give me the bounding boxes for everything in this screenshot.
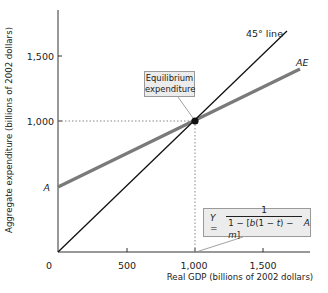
den-part: ) − [280, 218, 293, 228]
x-tick-label-1000: 1,000 [180, 260, 207, 271]
formula-rhs: A [304, 218, 310, 228]
formula-numerator: 1 [226, 205, 302, 217]
den-m: m [228, 230, 236, 240]
y-tick-label-1000: 1,000 [27, 116, 54, 127]
eq-callout-line-2: expenditure [145, 84, 194, 95]
a-intercept-label: A [43, 182, 51, 193]
equilibrium-point [191, 117, 198, 124]
eq-callout-line-1: Equilibrium [145, 73, 194, 84]
formula-lhs: Y = [210, 213, 224, 233]
y-tick-label-1500: 1,500 [27, 51, 54, 62]
eq-callout-pointer [178, 97, 193, 118]
ae-label: AE [295, 57, 309, 68]
multiplier-formula-callout: Y = 1 1 − [b(1 − t) − m] A [203, 208, 311, 237]
equilibrium-expenditure-callout: Equilibrium expenditure [144, 71, 195, 97]
x-tick-label-1500: 1,500 [249, 260, 276, 271]
den-part: ] [237, 230, 240, 240]
formula-fraction: 1 1 − [b(1 − t) − m] [228, 205, 300, 241]
den-part: 1 − [ [228, 218, 249, 228]
x-axis-title: Real GDP (billions of 2002 dollars) [167, 272, 313, 282]
chart-canvas: 0 500 1,000 1,500 1,500 1,000 A 45° line… [0, 0, 328, 293]
formula-denominator: 1 − [b(1 − t) − m] [228, 217, 300, 241]
line-45-label: 45° line [246, 28, 283, 39]
y-axis-title: Aggregate expenditure (billions of 2002 … [4, 27, 14, 233]
x-tick-label-0: 0 [46, 260, 52, 271]
den-part: (1 − [255, 218, 276, 228]
x-tick-label-500: 500 [118, 260, 136, 271]
